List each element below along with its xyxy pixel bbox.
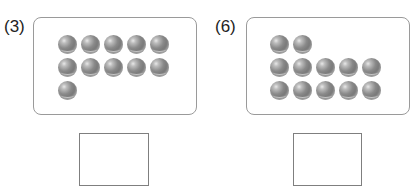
counter-ball-icon (150, 58, 169, 77)
counter-ball-icon (270, 35, 289, 54)
counter-ball-icon (104, 35, 123, 54)
counter-ball-icon (293, 81, 312, 100)
counter-ball-icon (58, 58, 77, 77)
counter-ball-icon (339, 81, 358, 100)
counter-ball-icon (362, 81, 381, 100)
counter-ball-icon (362, 58, 381, 77)
counter-ball-icon (127, 35, 146, 54)
counter-ball-icon (81, 35, 100, 54)
counter-ball-icon (58, 35, 77, 54)
counter-ball-icon (270, 58, 289, 77)
counter-ball-icon (293, 58, 312, 77)
problem-3-answer-box[interactable] (79, 133, 149, 186)
counter-ball-icon (150, 35, 169, 54)
counter-ball-icon (127, 58, 146, 77)
counter-ball-icon (339, 58, 358, 77)
problem-3-counters-panel (33, 17, 197, 115)
counter-ball-icon (293, 35, 312, 54)
problem-6-answer-box[interactable] (293, 133, 362, 186)
counter-ball-icon (81, 58, 100, 77)
problem-6-label: (6) (215, 17, 236, 37)
counter-ball-icon (316, 58, 335, 77)
counter-ball-icon (270, 81, 289, 100)
problem-6-counters-panel (246, 17, 410, 115)
counter-ball-icon (316, 81, 335, 100)
counter-ball-icon (58, 81, 77, 100)
problem-3-label: (3) (4, 17, 25, 37)
counter-ball-icon (104, 58, 123, 77)
